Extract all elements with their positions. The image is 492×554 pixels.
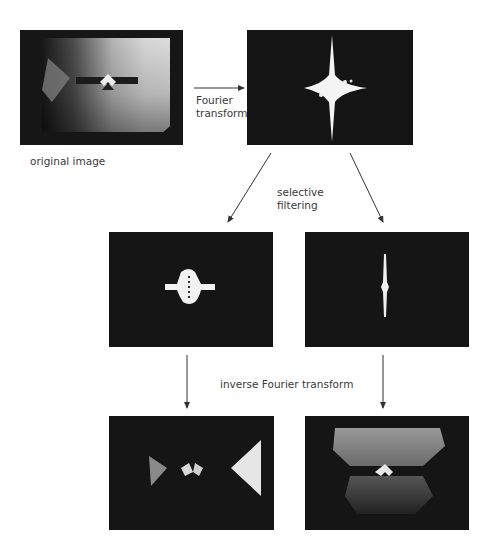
fourier-label-line1: Fourier	[196, 94, 247, 107]
fourier-spectrum-image	[247, 30, 413, 145]
arrow-filter-right	[350, 153, 383, 222]
filtered-spectrum-right-image	[305, 232, 469, 347]
filtered-spectrum-left-image	[109, 232, 273, 347]
original-image-caption: original image	[30, 155, 105, 168]
reconstructed-left-image	[109, 416, 274, 530]
original-image-panel	[20, 30, 183, 145]
filtered-spectrum-left-panel	[109, 232, 273, 347]
selective-filtering-label: selective filtering	[277, 186, 324, 212]
selective-label-line1: selective	[277, 186, 324, 199]
fourier-label-line2: transform	[196, 107, 247, 120]
reconstructed-right-image	[305, 416, 469, 530]
fourier-spectrum-panel	[247, 30, 413, 145]
reconstructed-left-panel	[109, 416, 274, 530]
inverse-fourier-label: inverse Fourier transform	[220, 378, 353, 391]
arrow-filter-left	[228, 153, 271, 222]
reconstructed-right-panel	[305, 416, 469, 530]
original-image	[20, 30, 183, 145]
fourier-transform-label: Fourier transform	[196, 94, 247, 120]
filtered-spectrum-right-panel	[305, 232, 469, 347]
selective-label-line2: filtering	[277, 199, 324, 212]
